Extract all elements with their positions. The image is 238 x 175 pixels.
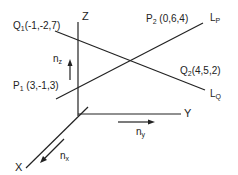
nx-sub: x (66, 155, 70, 162)
ny-sub: y (142, 131, 146, 138)
nz-sub: z (59, 58, 63, 65)
p2-sub: 2 (153, 18, 157, 25)
x-axis-label: X (15, 162, 22, 173)
p1-name: P (13, 80, 20, 91)
p1-sub: 1 (20, 85, 24, 92)
q1-name: Q (13, 20, 21, 31)
p2-name: P (146, 13, 153, 24)
lp-sub: P (216, 17, 221, 24)
line-lq-label: LQ (210, 88, 221, 102)
line-lp-label: LP (210, 12, 220, 26)
nx-label: nx (60, 150, 69, 164)
point-q2-label: Q2(4,5,2) (180, 65, 221, 79)
ny-arrow-icon (118, 120, 155, 125)
point-p1-label: P1 (3,-1,3) (13, 80, 59, 94)
y-axis-label: Y (184, 108, 191, 119)
q2-name: Q (180, 65, 188, 76)
nz-arrow-icon (68, 59, 73, 80)
p2-coords: (0,6,4) (159, 13, 188, 24)
x-axis (26, 107, 88, 168)
ny-label: ny (136, 126, 145, 140)
nz-label: nz (53, 53, 62, 67)
point-p2-label: P2 (0,6,4) (146, 13, 188, 27)
q2-coords: (4,5,2) (192, 65, 221, 76)
lq-sub: Q (216, 93, 221, 100)
point-q1-label: Q1(-1,-2,7) (13, 20, 60, 34)
q1-coords: (-1,-2,7) (25, 20, 61, 31)
p1-coords: (3,-1,3) (26, 80, 58, 91)
z-axis-label: Z (82, 11, 89, 22)
